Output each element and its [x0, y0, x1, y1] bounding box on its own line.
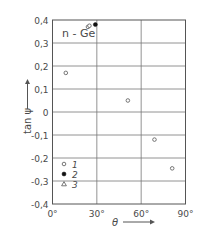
y-axis-label-text: tan ψ — [22, 107, 33, 134]
data-point-series-2 — [93, 23, 97, 27]
y-axis-ticks: 0,40,30,20,10-0,1-0,2-0,3-0,4 — [31, 16, 49, 210]
y-tick-label: 0,4 — [34, 16, 49, 26]
legend-marker-open-circle-icon — [62, 162, 66, 166]
x-tick-label: 60° — [133, 209, 149, 219]
x-axis-label-text: θ — [112, 217, 118, 228]
y-tick-label: -0,3 — [31, 177, 49, 187]
x-axis-ticks: 0°30°60°90° — [47, 209, 193, 219]
scatter-plot: 0,40,30,20,10-0,1-0,2-0,3-0,4 0°30°60°90… — [0, 0, 201, 242]
material-annotation: n - Ge — [62, 27, 95, 40]
data-point-series-1 — [64, 71, 68, 75]
arrow-up-icon — [25, 79, 30, 84]
legend: 123 — [62, 160, 78, 190]
arrow-right-icon — [150, 220, 155, 225]
y-tick-label: -0,4 — [31, 200, 49, 210]
y-tick-label: 0,1 — [34, 85, 48, 95]
y-tick-label: 0,2 — [34, 62, 48, 72]
y-axis-label: tan ψ — [22, 79, 33, 134]
legend-marker-open-triangle-icon — [62, 182, 67, 186]
x-tick-label: 90° — [178, 209, 194, 219]
y-tick-label: -0,1 — [31, 131, 49, 141]
data-point-series-1 — [153, 138, 157, 142]
legend-label: 1 — [72, 160, 78, 170]
legend-marker-filled-circle-icon — [62, 172, 66, 176]
legend-label: 2 — [72, 170, 78, 180]
y-tick-label: 0 — [43, 108, 49, 118]
data-point-series-1 — [126, 99, 130, 103]
data-point-series-1 — [170, 167, 174, 171]
legend-label: 3 — [72, 180, 78, 190]
data-points — [64, 23, 174, 171]
y-tick-label: 0,3 — [34, 39, 48, 49]
x-tick-label: 0° — [47, 209, 57, 219]
y-tick-label: -0,2 — [31, 154, 49, 164]
chart-container: 0,40,30,20,10-0,1-0,2-0,3-0,4 0°30°60°90… — [0, 0, 201, 242]
x-tick-label: 30° — [89, 209, 105, 219]
